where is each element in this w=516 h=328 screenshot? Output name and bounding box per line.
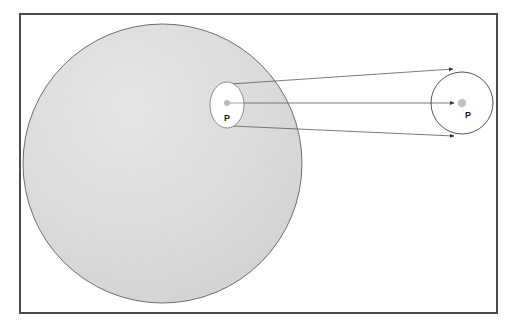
point-p-source-label: P (224, 113, 230, 123)
diagram-canvas: P P (0, 0, 516, 328)
point-p-projected-dot (458, 99, 466, 107)
large-sphere (23, 24, 302, 303)
point-p-source-dot (224, 100, 230, 106)
point-p-projected-label: P (465, 110, 471, 120)
projection-diagram: P P (0, 0, 516, 328)
